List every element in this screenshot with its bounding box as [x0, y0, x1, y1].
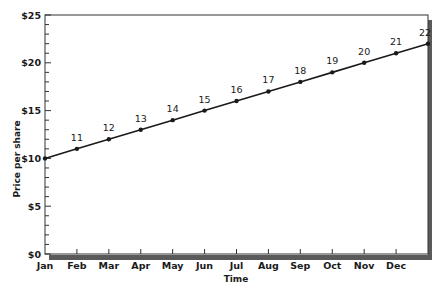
x-tick-label: Aug [258, 260, 279, 271]
data-label: 21 [390, 36, 402, 47]
x-tick-label: Mar [99, 260, 120, 271]
data-point [298, 80, 302, 84]
x-tick-label: Sep [290, 260, 310, 271]
y-tick-label: $25 [21, 10, 41, 21]
data-point [43, 156, 47, 160]
data-point [234, 99, 238, 103]
plot-area [45, 15, 428, 254]
data-point [266, 89, 270, 93]
data-label: 18 [294, 65, 306, 76]
data-label: 22 [419, 27, 431, 38]
data-label: 13 [135, 113, 147, 124]
data-label: 20 [358, 46, 370, 57]
data-label: 11 [71, 132, 83, 143]
data-point [330, 70, 334, 74]
x-tick-label: Nov [354, 260, 375, 271]
y-tick-label: $10 [21, 153, 41, 164]
data-label: 12 [103, 122, 115, 133]
data-point [362, 61, 366, 65]
data-label: 16 [230, 84, 242, 95]
line-chart: $0$5$10$15$20$25 JanFebMarAprMayJunJulAu… [0, 0, 434, 293]
data-point [107, 137, 111, 141]
x-tick-label: Jun [195, 260, 213, 271]
data-point [394, 51, 398, 55]
data-label: 15 [199, 94, 211, 105]
data-point [75, 147, 79, 151]
y-tick-label: $0 [28, 249, 42, 260]
x-tick-label: Dec [386, 260, 406, 271]
data-point [202, 108, 206, 112]
x-tick-label: Jul [229, 260, 244, 271]
y-tick-label: $5 [28, 201, 41, 212]
x-tick-label: Oct [323, 260, 342, 271]
data-point [139, 128, 143, 132]
x-axis-title: Time [224, 274, 249, 284]
y-axis-title: Price per share [12, 120, 22, 197]
x-tick-label: Jan [36, 260, 54, 271]
y-tick-label: $20 [21, 57, 41, 68]
data-label: 14 [167, 103, 179, 114]
x-tick-label: May [162, 260, 185, 271]
x-tick-label: Apr [131, 260, 150, 271]
data-label: 17 [262, 74, 274, 85]
data-point [170, 118, 174, 122]
x-tick-label: Feb [67, 260, 87, 271]
y-tick-label: $15 [21, 105, 41, 116]
frame-shadow-right [428, 20, 432, 260]
data-label: 19 [326, 55, 338, 66]
data-point [426, 41, 430, 45]
